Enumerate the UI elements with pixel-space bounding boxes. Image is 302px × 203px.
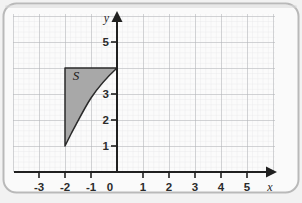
major-gridlines (13, 14, 275, 172)
y-axis-label: y (103, 11, 110, 25)
x-tick-label-5: 5 (244, 181, 251, 193)
y-tick-label-5: 5 (103, 36, 110, 48)
frame-top-shadow (5, 5, 297, 8)
x-tick-label--1: -1 (86, 181, 97, 193)
x-tick-label-3: 3 (192, 181, 198, 193)
x-tick-label-4: 4 (218, 181, 225, 193)
region-label-s: S (73, 68, 80, 83)
coordinate-plane-svg: -3 -2 -1 0 1 2 3 4 5 1 2 3 5 y x S (0, 0, 302, 203)
y-tick-label-3: 3 (103, 88, 109, 100)
x-tick-label--3: -3 (34, 181, 44, 193)
x-tick-label-2: 2 (166, 181, 172, 193)
graph-figure: -3 -2 -1 0 1 2 3 4 5 1 2 3 5 y x S (0, 0, 302, 203)
x-tick-labels: -3 -2 -1 0 1 2 3 4 5 (34, 181, 251, 193)
x-tick-label-0: 0 (107, 181, 113, 193)
y-tick-label-2: 2 (103, 114, 109, 126)
x-axis-label: x (266, 180, 273, 194)
x-tick-label-1: 1 (140, 181, 147, 193)
grid-area (13, 14, 275, 172)
x-tick-label--2: -2 (60, 181, 70, 193)
y-tick-label-1: 1 (103, 140, 110, 152)
